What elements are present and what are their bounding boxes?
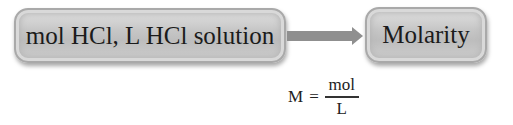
molarity-formula: M = mol L: [288, 74, 359, 120]
formula-equals: =: [309, 87, 319, 107]
formula-numerator: mol: [328, 75, 354, 95]
target-box: Molarity: [365, 7, 487, 63]
formula-lhs: M: [288, 87, 303, 107]
arrow-shaft: [287, 31, 353, 41]
formula-fraction: mol L: [325, 75, 359, 119]
arrow-right-icon: [352, 27, 363, 45]
fraction-bar: [325, 96, 359, 98]
target-box-label: Molarity: [382, 21, 470, 49]
formula-denominator: L: [337, 99, 347, 119]
source-box: mol HCl, L HCl solution: [14, 8, 286, 63]
source-box-label: mol HCl, L HCl solution: [26, 22, 274, 50]
